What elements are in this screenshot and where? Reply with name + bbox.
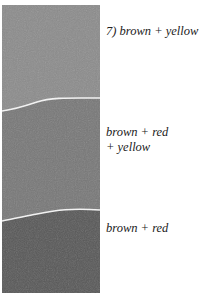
label-brown-red: brown + red — [106, 221, 168, 236]
swatch-graphic — [2, 5, 100, 293]
color-swatch-strip — [2, 5, 100, 293]
label-brown-red-yellow-line1: brown + red — [106, 125, 168, 140]
label-brown-yellow: 7) brown + yellow — [106, 24, 198, 39]
label-brown-red-yellow-line2: + yellow — [106, 140, 150, 155]
